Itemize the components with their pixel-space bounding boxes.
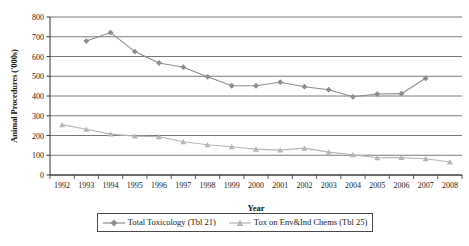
x-tick-label: 1996 [151, 181, 167, 190]
x-tick-label: 2005 [369, 181, 385, 190]
x-tick-label: 2000 [248, 181, 264, 190]
x-tick-label: 2006 [393, 181, 409, 190]
chart-container: Animal Procedures ('000s) 01002003004005… [0, 0, 469, 246]
x-tick-label: 1999 [224, 181, 240, 190]
x-tick-label: 2004 [345, 181, 361, 190]
x-tick-label: 2003 [321, 181, 337, 190]
x-tick-label: 2002 [296, 181, 312, 190]
y-tick-label: 700 [32, 33, 44, 42]
data-point-marker [253, 83, 259, 89]
data-point-marker [350, 94, 356, 100]
y-tick-label: 800 [32, 13, 44, 22]
legend-marker-triangle-icon [229, 218, 251, 228]
data-point-marker [180, 64, 186, 70]
y-tick-label: 200 [32, 132, 44, 141]
data-point-marker [302, 84, 308, 90]
legend-item-total-toxicology[interactable]: Total Toxicology (Tbl 21) [103, 218, 216, 228]
legend-label-tox-env-ind-chems: Tox on Env&Ind Chems (Tbl 25) [254, 218, 367, 227]
y-tick-labels: 0100200300400500600700800 [32, 13, 44, 180]
y-tick-label: 0 [40, 171, 44, 180]
legend-item-tox-env-ind-chems[interactable]: Tox on Env&Ind Chems (Tbl 25) [229, 218, 367, 228]
y-tick-label: 300 [32, 112, 44, 121]
x-axis-title: Year [50, 203, 462, 213]
legend-label-total-toxicology: Total Toxicology (Tbl 21) [128, 218, 216, 227]
x-tick-label: 1998 [200, 181, 216, 190]
data-point-marker [326, 87, 332, 93]
x-tick-label: 1993 [78, 181, 94, 190]
x-axis [50, 17, 462, 179]
x-tick-label: 2001 [272, 181, 288, 190]
data-point-marker [229, 83, 235, 89]
y-tick-label: 400 [32, 92, 44, 101]
x-tick-label: 1994 [103, 181, 119, 190]
y-tick-label: 100 [32, 151, 44, 160]
series-2 [59, 122, 453, 165]
x-tick-label: 2008 [442, 181, 458, 190]
y-tick-label: 500 [32, 72, 44, 81]
x-tick-label: 2007 [418, 181, 434, 190]
x-tick-label: 1997 [175, 181, 191, 190]
data-point-marker [83, 38, 89, 44]
x-tick-label: 1995 [127, 181, 143, 190]
data-point-marker [205, 74, 211, 80]
legend-marker-diamond-icon [103, 218, 125, 228]
data-point-marker [277, 79, 283, 85]
x-tick-label: 1992 [54, 181, 70, 190]
x-tick-labels: 1992199319941995199619971998199920002001… [54, 181, 458, 190]
y-tick-label: 600 [32, 53, 44, 62]
chart-legend: Total Toxicology (Tbl 21) Tox on Env&Ind… [97, 213, 373, 232]
series-layer [59, 30, 453, 165]
data-point-marker [156, 60, 162, 66]
series-1 [83, 30, 428, 100]
